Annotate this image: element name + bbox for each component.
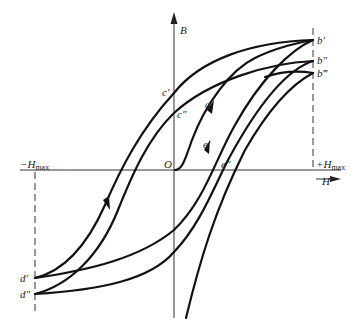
pos-hmax-label: +Hmax <box>316 158 345 172</box>
label-b-prime: b′ <box>317 34 326 46</box>
label-a: a <box>205 98 211 110</box>
label-b-triple-prime: b‴ <box>317 67 329 79</box>
label-c-prime: c′ <box>162 86 170 98</box>
h-arrow-icon <box>330 176 341 182</box>
label-e-double-prime: e″ <box>221 158 231 170</box>
hysteresis-diagram: B H O −Hmax +Hmax b′ b″ b‴ c′ c″ d′ d″ a… <box>0 0 364 331</box>
label-b-double-prime: b″ <box>317 54 328 66</box>
label-c-double-prime: c″ <box>177 108 187 120</box>
h-axis-label: H <box>321 175 331 187</box>
b-axis-arrow-icon <box>171 12 178 24</box>
label-d-prime: d′ <box>20 272 29 284</box>
b-axis-label: B <box>180 24 187 36</box>
label-e-prime: e′ <box>203 138 211 150</box>
neg-hmax-label: −Hmax <box>20 158 49 172</box>
origin-label: O <box>164 158 172 170</box>
label-d-double-prime: d″ <box>20 288 31 300</box>
